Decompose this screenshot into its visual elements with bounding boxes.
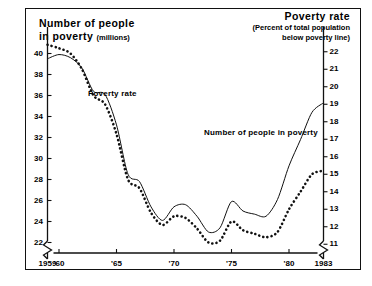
left-axis-tick-label: 30 xyxy=(18,154,43,163)
right-axis-tick-label: 22 xyxy=(330,47,339,56)
series-label-poverty-rate: Poverty rate xyxy=(88,89,137,98)
series-line-poverty-rate xyxy=(48,45,324,244)
chart-plot-area xyxy=(0,0,372,286)
x-axis-tick-label: '70 xyxy=(160,259,188,268)
x-axis-tick-label: '75 xyxy=(218,259,246,268)
series-layer xyxy=(48,45,324,244)
axes-layer xyxy=(44,27,328,259)
x-axis-tick-label: 1983 xyxy=(310,259,338,268)
left-axis-tick-label: 22 xyxy=(18,238,43,247)
right-axis-tick-label: 16 xyxy=(330,152,339,161)
right-axis-tick-label: 20 xyxy=(330,82,339,91)
series-label-number-in-poverty: Number of people in poverty xyxy=(204,128,318,137)
right-axis-tick-label: 11 xyxy=(330,239,338,248)
x-axis-tick-label: '65 xyxy=(103,259,131,268)
poverty-chart-figure: Number of people in poverty (millions) P… xyxy=(0,0,372,286)
x-axis-tick-label: '80 xyxy=(275,259,303,268)
series-line-number-in-poverty xyxy=(48,55,324,233)
left-axis-tick-label: 38 xyxy=(18,70,43,79)
left-axis-tick-label: 26 xyxy=(18,196,43,205)
right-axis-tick-label: 19 xyxy=(330,99,339,108)
left-axis-tick-label: 28 xyxy=(18,175,43,184)
x-axis-tick-label: '60 xyxy=(45,259,73,268)
left-axis-tick-label: 34 xyxy=(18,112,43,121)
right-axis-tick-label: 18 xyxy=(330,117,339,126)
right-axis-tick-label: 13 xyxy=(330,204,339,213)
right-axis-tick-label: 14 xyxy=(330,187,339,196)
right-axis-tick-label: 21 xyxy=(330,64,339,73)
right-axis-tick-label: 12 xyxy=(330,222,339,231)
left-axis-tick-label: 32 xyxy=(18,133,43,142)
left-axis-tick-label: 36 xyxy=(18,91,43,100)
left-axis-tick-label: 40 xyxy=(18,49,43,58)
right-axis-tick-label: 17 xyxy=(330,134,339,143)
right-axis-tick-label: 15 xyxy=(330,169,339,178)
left-axis-tick-label: 24 xyxy=(18,217,43,226)
